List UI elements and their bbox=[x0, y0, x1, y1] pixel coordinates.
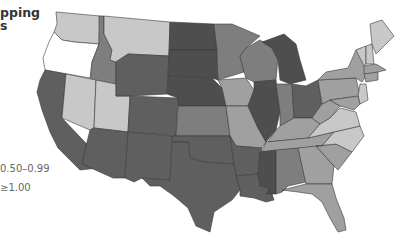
state-ND bbox=[169, 22, 217, 50]
state-ME bbox=[370, 20, 394, 54]
state-SD bbox=[168, 50, 218, 80]
state-CT bbox=[364, 72, 378, 82]
legend-label-0.50-0.99: 0.50–0.99 bbox=[0, 163, 50, 174]
state-WY bbox=[116, 54, 169, 96]
legend-label-1.00-plus: ≥1.00 bbox=[0, 182, 31, 193]
us-choropleth-map bbox=[0, 0, 403, 241]
state-NV bbox=[62, 74, 96, 130]
state-NH bbox=[366, 44, 374, 64]
state-NM bbox=[125, 132, 172, 182]
state-KS bbox=[176, 106, 230, 136]
state-AZ bbox=[82, 128, 128, 178]
state-FL bbox=[282, 184, 346, 232]
state-CO bbox=[128, 96, 178, 136]
